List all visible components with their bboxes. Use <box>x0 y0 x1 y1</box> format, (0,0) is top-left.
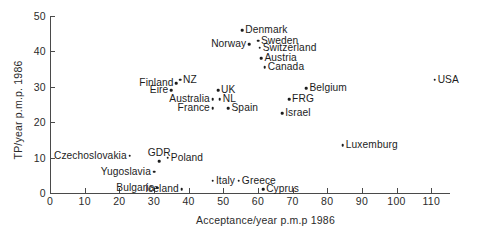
x-tick-label: 10 <box>79 195 91 207</box>
x-tick-label: 70 <box>286 195 298 207</box>
x-tick-mark <box>327 188 328 193</box>
data-point[interactable] <box>170 89 173 92</box>
data-point[interactable] <box>433 78 436 81</box>
y-axis-title: TP/year p.m.p. 1986 <box>12 30 24 190</box>
x-tick-label: 40 <box>182 195 194 207</box>
data-point[interactable] <box>260 57 263 60</box>
data-point[interactable] <box>179 78 182 81</box>
data-point[interactable] <box>257 39 260 42</box>
data-point[interactable] <box>258 46 261 49</box>
data-point-label: Yugoslavia <box>101 167 151 177</box>
data-point-label: FRG <box>292 94 314 104</box>
x-tick-label: 0 <box>47 195 53 207</box>
data-point[interactable] <box>219 98 222 101</box>
data-point[interactable] <box>264 66 267 69</box>
data-point[interactable] <box>212 179 215 182</box>
data-point-label: Spain <box>231 103 258 113</box>
data-point[interactable] <box>158 160 161 163</box>
x-tick-label: 100 <box>387 195 405 207</box>
y-tick-mark <box>50 51 55 52</box>
x-tick-label: 30 <box>148 195 160 207</box>
x-tick-mark <box>189 188 190 193</box>
data-point-label: USA <box>438 75 459 85</box>
data-point-label: Poland <box>171 152 203 162</box>
data-point[interactable] <box>180 188 183 191</box>
x-axis-title: Acceptance/year p.m.p 1986 <box>0 214 477 226</box>
x-tick-mark <box>397 188 398 193</box>
data-point[interactable] <box>212 98 215 101</box>
x-tick-mark <box>258 188 259 193</box>
x-axis-title-text: Acceptance/year p.m.p 1986 <box>142 214 335 226</box>
data-point-label: Belgium <box>309 83 347 93</box>
data-point-label: Luxemburg <box>346 140 398 150</box>
data-point[interactable] <box>128 155 131 158</box>
y-tick-mark <box>50 16 55 17</box>
y-tick-mark <box>50 87 55 88</box>
x-tick-label: 20 <box>113 195 125 207</box>
data-point[interactable] <box>238 179 241 182</box>
x-tick-mark <box>362 188 363 193</box>
y-tick-mark <box>50 122 55 123</box>
x-tick-mark <box>223 188 224 193</box>
data-point[interactable] <box>262 188 265 191</box>
x-axis-line <box>50 193 450 194</box>
data-point-label: Eire <box>150 85 169 95</box>
data-point-label: Israel <box>285 108 311 118</box>
data-point[interactable] <box>175 82 178 85</box>
data-point[interactable] <box>342 144 345 147</box>
data-point-label: France <box>178 103 210 113</box>
data-point[interactable] <box>305 87 308 90</box>
data-point-label: Norway <box>211 39 246 49</box>
x-tick-label: 110 <box>422 195 440 207</box>
x-tick-label: 50 <box>217 195 229 207</box>
scatter-plot-figure: 0102030405060708090100110 01020304050 De… <box>0 0 477 237</box>
y-tick-label: 50 <box>20 10 46 22</box>
data-point[interactable] <box>227 107 230 110</box>
data-point[interactable] <box>212 107 215 110</box>
x-tick-label: 80 <box>321 195 333 207</box>
data-point[interactable] <box>288 98 291 101</box>
data-point[interactable] <box>153 170 156 173</box>
data-point-label: Iceland <box>145 184 179 194</box>
x-tick-label: 90 <box>356 195 368 207</box>
y-axis-line <box>50 16 51 194</box>
data-point-label: Italy <box>216 175 235 185</box>
data-point-label: Cyprus <box>266 184 299 194</box>
x-tick-mark <box>431 188 432 193</box>
data-point[interactable] <box>248 43 251 46</box>
plot-area: 0102030405060708090100110 01020304050 De… <box>0 0 477 237</box>
data-point-label: Czechoslovakia <box>54 151 127 161</box>
x-tick-mark <box>85 188 86 193</box>
data-point[interactable] <box>281 112 284 115</box>
data-point[interactable] <box>167 156 170 159</box>
data-point[interactable] <box>217 89 220 92</box>
data-point[interactable] <box>241 29 244 32</box>
data-point-label: NZ <box>183 75 197 85</box>
x-tick-label: 60 <box>252 195 264 207</box>
data-point-label: Canada <box>268 62 304 72</box>
